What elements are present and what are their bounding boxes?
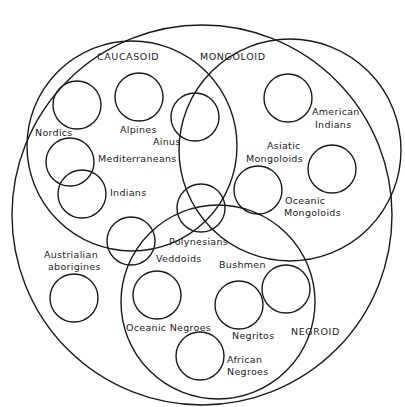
veddoids-label: Veddoids [156, 253, 202, 264]
oceanic-mongoloids-circle [234, 166, 282, 214]
indians-circle [58, 170, 106, 218]
bushmen-label: Bushmen [219, 259, 266, 270]
alpines-label: Alpines [120, 124, 157, 135]
caucasoid-label: CAUCASOID [97, 51, 159, 62]
negroid-label: NEGROID [291, 326, 340, 337]
mediterraneans-label: Mediterraneans [98, 153, 177, 164]
mediterraneans-circle [46, 138, 94, 186]
african-negroes-label-1: African [227, 354, 262, 365]
alpines-circle [115, 73, 163, 121]
oceanic-mongoloids-label-2: Mongoloids [284, 207, 341, 218]
african-negroes-circle [176, 332, 224, 380]
nordics-circle [53, 81, 101, 129]
indians-label: Indians [110, 187, 146, 198]
oceanic-mongoloids-label-1: Oceanic [285, 195, 325, 206]
mongoloid-label: MONGOLOID [200, 51, 266, 62]
nordics-label: Nordics [35, 127, 73, 138]
australian-aborigines-circle [50, 274, 98, 322]
asiatic-mongoloids-label-1: Asiatic [267, 140, 301, 151]
polynesians-label: Polynesians [169, 236, 228, 247]
african-negroes-label-2: Negroes [227, 366, 268, 377]
negritos-label: Negritos [232, 330, 274, 341]
bushmen-circle [262, 265, 310, 313]
negritos-circle [215, 281, 263, 329]
ainus-circle [171, 93, 219, 141]
caucasoid-circle [27, 41, 237, 251]
australian-aborigines-label-2: aborigines [48, 261, 101, 272]
australian-aborigines-label-1: Austrialian [44, 249, 98, 260]
asiatic-mongoloids-label-2: Mongoloids [246, 153, 303, 164]
american-indians-circle [264, 74, 312, 122]
oceanic-negroes-label: Oceanic Negroes [126, 322, 211, 333]
oceanic-negroes-circle [133, 271, 181, 319]
asiatic-mongoloids-circle [308, 145, 356, 193]
ainus-label: Ainus [153, 136, 181, 147]
human-races-venn-diagram: CAUCASOID MONGOLOID NEGROID Nordics Alpi… [0, 0, 405, 407]
american-indians-label-1: American [312, 106, 360, 117]
american-indians-label-2: Indians [315, 119, 351, 130]
